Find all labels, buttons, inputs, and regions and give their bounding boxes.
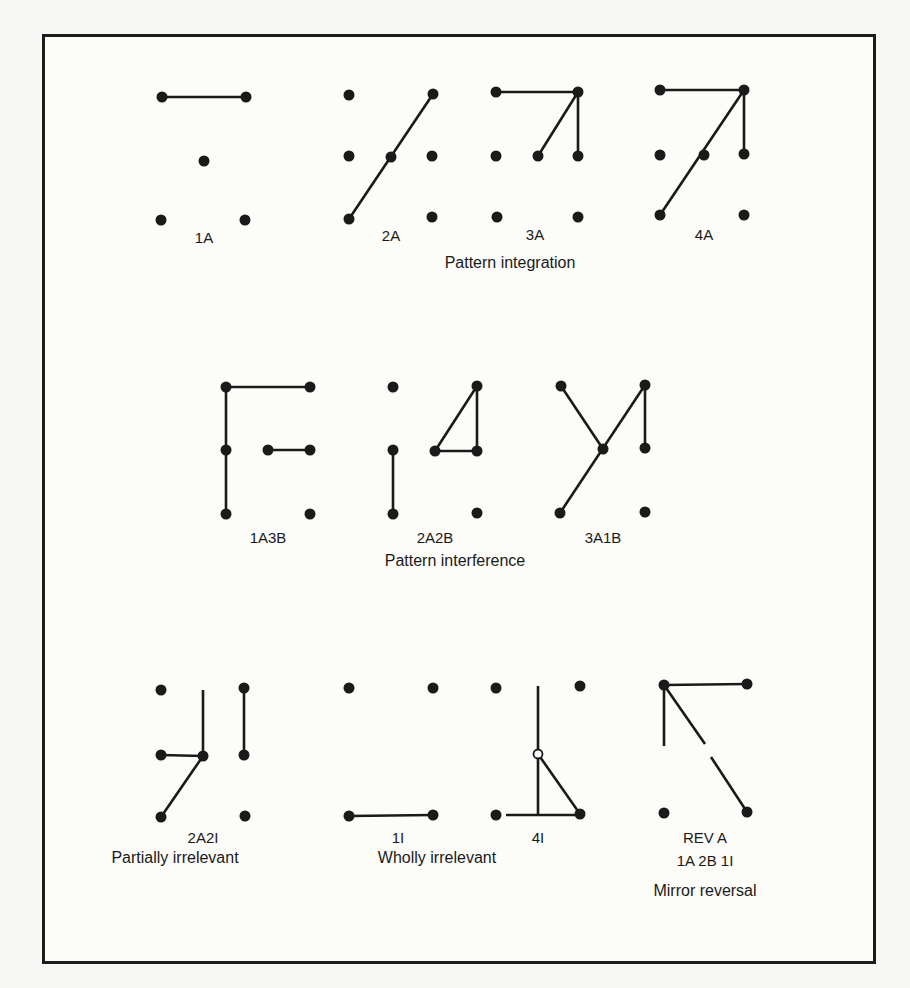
filled-dot (491, 87, 502, 98)
connector-line (561, 386, 603, 449)
pattern-label: 2A2I (188, 829, 219, 846)
pattern-sublabel: 1A 2B 1I (677, 852, 734, 869)
filled-dot (699, 150, 710, 161)
filled-dot (221, 382, 232, 393)
filled-dot (305, 445, 316, 456)
hollow-dot (534, 750, 543, 759)
filled-dot (640, 443, 651, 454)
filled-dot (239, 750, 250, 761)
filled-dot (388, 509, 399, 520)
filled-dot (386, 152, 397, 163)
pattern-label: 4I (532, 829, 545, 846)
connector-line (538, 92, 578, 156)
filled-dot (739, 149, 750, 160)
filled-dot (428, 89, 439, 100)
pattern-label: 3A1B (585, 529, 622, 546)
filled-dot (555, 508, 566, 519)
section-caption: Partially irrelevant (111, 849, 239, 866)
filled-dot (655, 85, 666, 96)
connecting-lines (161, 90, 747, 817)
filled-dot (240, 811, 251, 822)
filled-dot (659, 808, 670, 819)
pattern-labels: 1A2A3A4APattern integration1A3B2A2B3A1BP… (111, 226, 756, 899)
filled-dot (742, 679, 753, 690)
filled-dot (430, 446, 441, 457)
filled-dot (221, 445, 232, 456)
filled-dot (742, 807, 753, 818)
pattern-label: 2A (382, 227, 400, 244)
filled-dot (241, 92, 252, 103)
pattern-label: 2A2B (417, 529, 454, 546)
filled-dot (640, 507, 651, 518)
connector-line (538, 754, 580, 814)
filled-dot (344, 683, 355, 694)
filled-dot (305, 382, 316, 393)
filled-dot (344, 151, 355, 162)
section-caption: Pattern integration (445, 254, 576, 271)
connector-line (664, 685, 705, 744)
filled-dot (240, 215, 251, 226)
pattern-label: 3A (526, 226, 544, 243)
filled-dot (492, 212, 503, 223)
filled-dot (573, 87, 584, 98)
pattern-label: 1I (392, 829, 405, 846)
filled-dot (739, 85, 750, 96)
filled-dot (428, 683, 439, 694)
filled-dot (156, 215, 167, 226)
section-caption: Mirror reversal (653, 882, 756, 899)
filled-dot (239, 683, 250, 694)
filled-dot (491, 810, 502, 821)
filled-dot (491, 151, 502, 162)
connector-line (711, 757, 747, 812)
filled-dot (157, 92, 168, 103)
connector-line (161, 755, 203, 756)
filled-dot (533, 151, 544, 162)
filled-dot (388, 382, 399, 393)
dot-pattern-figure: 1A2A3A4APattern integration1A3B2A2B3A1BP… (0, 0, 910, 988)
filled-dot (655, 150, 666, 161)
filled-dot (640, 380, 651, 391)
connector-line (435, 386, 477, 451)
connector-line (161, 756, 203, 817)
filled-dot (198, 751, 209, 762)
filled-dot (573, 212, 584, 223)
filled-dot (156, 750, 167, 761)
section-caption: Pattern interference (385, 552, 526, 569)
filled-dot (598, 444, 609, 455)
filled-dot (739, 210, 750, 221)
filled-dot (344, 811, 355, 822)
filled-dot (427, 151, 438, 162)
filled-dot (655, 210, 666, 221)
pattern-label: REV A (683, 829, 727, 846)
connector-line (664, 684, 747, 685)
filled-dot (659, 680, 670, 691)
filled-dot (472, 381, 483, 392)
filled-dot (573, 151, 584, 162)
filled-dot (344, 214, 355, 225)
filled-dot (491, 683, 502, 694)
filled-dot (263, 445, 274, 456)
filled-dot (156, 685, 167, 696)
filled-dot (344, 90, 355, 101)
filled-dot (575, 681, 586, 692)
filled-dot (575, 809, 586, 820)
section-caption: Wholly irrelevant (378, 849, 497, 866)
filled-dot (199, 156, 210, 167)
pattern-label: 1A (195, 229, 213, 246)
pattern-label: 1A3B (250, 529, 287, 546)
filled-dot (556, 381, 567, 392)
filled-dot (472, 446, 483, 457)
pattern-label: 4A (695, 226, 713, 243)
filled-dot (305, 509, 316, 520)
filled-dot (472, 508, 483, 519)
filled-dot (156, 812, 167, 823)
filled-dot (427, 212, 438, 223)
connector-line (349, 815, 433, 816)
filled-dot (428, 810, 439, 821)
filled-dot (388, 445, 399, 456)
filled-dot (221, 509, 232, 520)
